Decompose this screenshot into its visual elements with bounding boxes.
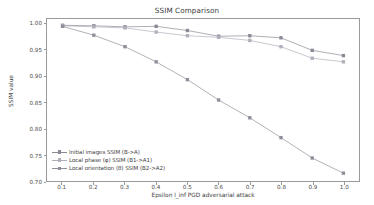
x-tick-label: 0.6 (214, 184, 223, 190)
x-tick-label: 0.9 (308, 184, 317, 190)
data-point-marker (342, 171, 345, 174)
legend-marker-icon (58, 167, 61, 170)
x-tick-label: 0.1 (57, 184, 66, 190)
data-point-marker (186, 34, 189, 37)
data-point-marker (155, 60, 158, 63)
x-tick-label: 0.7 (246, 184, 255, 190)
x-axis-label: Epsilon l_inf PGD adversarial attack (46, 192, 360, 198)
data-point-marker (342, 60, 345, 63)
legend-label: Initial images SSIM (B->A) (67, 149, 140, 155)
y-tick-label: 0.80 (30, 126, 42, 132)
data-point-marker (279, 45, 282, 48)
data-point-marker (61, 25, 64, 28)
legend-item[interactable]: Local orientation (θ) SSIM (B2->A2) (52, 164, 165, 172)
data-point-marker (92, 34, 95, 37)
data-point-marker (217, 36, 220, 39)
data-point-marker (248, 34, 251, 37)
y-tick-label: 0.90 (30, 73, 42, 79)
data-point-marker (123, 45, 126, 48)
data-point-marker (155, 30, 158, 33)
x-tick-label: 0.2 (89, 184, 98, 190)
data-point-marker (248, 116, 251, 119)
legend-label: Local orientation (θ) SSIM (B2->A2) (67, 165, 165, 171)
series-path (63, 26, 344, 62)
data-point-marker (279, 36, 282, 39)
y-axis-label: SSIM value (8, 51, 14, 131)
x-tick-label: 0.4 (151, 184, 160, 190)
data-point-marker (92, 25, 95, 28)
y-tick-label: 0.75 (30, 153, 42, 159)
legend-swatch-icon (52, 164, 67, 172)
y-tick-label: 0.95 (30, 47, 42, 53)
legend-swatch-icon (52, 156, 67, 164)
data-point-marker (342, 54, 345, 57)
chart-legend: Initial images SSIM (B->A)Local phase (φ… (50, 147, 167, 174)
legend-marker-icon (58, 150, 61, 153)
data-point-marker (311, 57, 314, 60)
data-point-marker (123, 26, 126, 29)
data-point-marker (311, 49, 314, 52)
x-tick-label: 1.0 (340, 184, 349, 190)
y-tick-label: 0.85 (30, 100, 42, 106)
chart-figure: SSIM Comparison SSIM value 0.700.750.800… (0, 0, 374, 205)
legend-item[interactable]: Local phase (φ) SSIM (B1->A1) (52, 156, 165, 164)
series-line (61, 24, 345, 63)
chart-title: SSIM Comparison (0, 6, 374, 15)
y-tick-label: 0.70 (30, 179, 42, 185)
data-point-marker (186, 29, 189, 32)
data-point-marker (217, 98, 220, 101)
series-path (63, 25, 344, 55)
y-axis-tick-labels: 0.700.750.800.850.900.951.00 (18, 18, 42, 182)
data-point-marker (155, 25, 158, 28)
y-tick-label: 1.00 (30, 20, 42, 26)
legend-marker-icon (58, 158, 61, 161)
legend-swatch-icon (52, 148, 67, 156)
legend-label: Local phase (φ) SSIM (B1->A1) (67, 157, 152, 163)
x-tick-label: 0.5 (183, 184, 192, 190)
data-point-marker (279, 136, 282, 139)
legend-item[interactable]: Initial images SSIM (B->A) (52, 148, 165, 156)
data-point-marker (248, 39, 251, 42)
data-point-marker (186, 78, 189, 81)
x-tick-label: 0.8 (277, 184, 286, 190)
data-point-marker (311, 156, 314, 159)
series-line (61, 24, 345, 58)
x-tick-label: 0.3 (120, 184, 129, 190)
